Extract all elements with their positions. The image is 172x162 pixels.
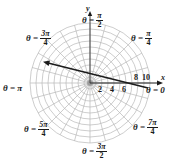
radius-tick-6: 6 [122, 86, 126, 94]
radius-tick-8: 8 [134, 74, 138, 82]
angle-label-zero: θ = 0 [146, 86, 165, 95]
origin-point [87, 80, 93, 86]
radius-tick-2: 2 [98, 86, 102, 94]
x-axis-label: x [161, 73, 165, 82]
angle-label-3pi-over-2: θ = 3π2 [82, 143, 107, 160]
arrowhead-icon [43, 61, 50, 66]
angle-label-pi-over-2: θ = π2 [82, 12, 103, 29]
radius-tick-4: 4 [110, 86, 114, 94]
angle-label-pi-over-4: θ = π4 [131, 30, 152, 47]
angle-label-3pi-over-4: θ = 3π4 [26, 30, 51, 47]
angle-label-pi: θ = π [3, 84, 22, 93]
radius-tick-10: 10 [142, 74, 150, 82]
angle-label-5pi-over-4: θ = 5π4 [24, 121, 49, 138]
angle-label-7pi-over-4: θ = 7π4 [133, 119, 158, 136]
